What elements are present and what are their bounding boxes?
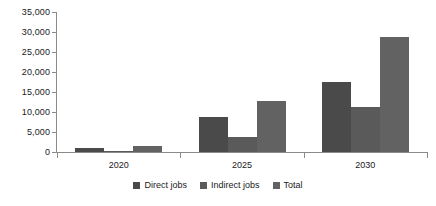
legend-swatch-icon <box>133 182 140 189</box>
y-axis-tick-label: 15,000 <box>22 87 50 97</box>
legend-item-indirect-jobs: Indirect jobs <box>200 180 260 190</box>
y-axis-tick-label: 20,000 <box>22 67 50 77</box>
y-axis-tick-label: 25,000 <box>22 47 50 57</box>
x-axis-category-separator <box>180 152 181 158</box>
bar-2020-direct-jobs <box>75 148 104 152</box>
chart-legend: Direct jobsIndirect jobsTotal <box>0 180 436 190</box>
y-axis-tick-labels: 05,00010,00015,00020,00025,00030,00035,0… <box>0 0 50 206</box>
bar-2030-direct-jobs <box>322 82 351 152</box>
y-axis-tick-label: 5,000 <box>27 127 50 137</box>
bar-2020-indirect-jobs <box>104 151 133 152</box>
y-axis-tick-label: 30,000 <box>22 27 50 37</box>
x-axis-label-2025: 2025 <box>232 160 252 170</box>
y-axis-tick-label: 35,000 <box>22 7 50 17</box>
plot-area <box>57 12 427 152</box>
x-axis-category-separator <box>304 152 305 158</box>
bar-2025-total <box>257 101 286 152</box>
x-axis-line <box>57 152 427 153</box>
legend-item-total: Total <box>273 180 303 190</box>
y-axis-tick-label: 0 <box>45 147 50 157</box>
bar-2025-indirect-jobs <box>228 137 257 152</box>
bar-2020-total <box>133 146 162 152</box>
legend-item-direct-jobs: Direct jobs <box>133 180 187 190</box>
x-axis-category-separator <box>57 152 58 158</box>
legend-label: Indirect jobs <box>211 180 260 190</box>
x-axis-label-2020: 2020 <box>109 160 129 170</box>
x-axis-category-separator <box>427 152 428 158</box>
y-axis-tick-label: 10,000 <box>22 107 50 117</box>
x-axis-label-2030: 2030 <box>355 160 375 170</box>
bar-chart: 05,00010,00015,00020,00025,00030,00035,0… <box>0 0 436 206</box>
legend-swatch-icon <box>200 182 207 189</box>
legend-swatch-icon <box>273 182 280 189</box>
bar-2025-direct-jobs <box>199 117 228 152</box>
bar-2030-indirect-jobs <box>351 107 380 152</box>
legend-label: Total <box>284 180 303 190</box>
legend-label: Direct jobs <box>144 180 187 190</box>
bar-2030-total <box>380 37 409 152</box>
